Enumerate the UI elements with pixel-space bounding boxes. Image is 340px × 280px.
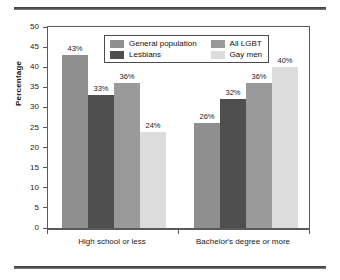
y-axis-tick-label: 40 xyxy=(30,63,43,71)
bar-column[interactable]: 26% xyxy=(194,27,220,228)
bar[interactable] xyxy=(62,55,88,228)
y-axis-ticks: 05101520253035404550 xyxy=(0,26,47,229)
bar-column[interactable]: 32% xyxy=(220,27,246,228)
bar-value-label: 40% xyxy=(277,57,292,65)
y-axis-tick-label: 0 xyxy=(35,224,43,232)
top-divider-rule xyxy=(14,7,326,10)
x-axis-label-0: High school or less xyxy=(78,237,146,247)
bar[interactable] xyxy=(272,67,298,228)
bar-chart-figure: Percentage 05101520253035404550 General … xyxy=(0,14,340,264)
bar-column[interactable]: 36% xyxy=(246,27,272,228)
bar-column[interactable]: 24% xyxy=(140,27,166,228)
y-axis-tick-label: 50 xyxy=(30,23,43,31)
y-axis-tick-label: 20 xyxy=(30,143,43,151)
bar-value-label: 24% xyxy=(145,122,160,130)
y-axis-tick-label: 5 xyxy=(35,203,43,211)
x-axis-tick-left xyxy=(47,229,48,234)
bar[interactable] xyxy=(194,123,220,228)
bar[interactable] xyxy=(114,83,140,228)
bar[interactable] xyxy=(220,99,246,228)
bar[interactable] xyxy=(88,95,114,228)
bar[interactable] xyxy=(140,132,166,228)
bar-group: 26%32%36%40% xyxy=(194,27,298,228)
y-axis-tick-label: 15 xyxy=(30,163,43,171)
bar-value-label: 36% xyxy=(251,73,266,81)
y-axis-tick-label: 45 xyxy=(30,43,43,51)
x-axis-category-labels: High school or less Bachelor's degree or… xyxy=(47,237,310,251)
bar-group: 43%33%36%24% xyxy=(62,27,166,228)
bar-value-label: 33% xyxy=(93,85,108,93)
bar-value-label: 43% xyxy=(67,45,82,53)
x-axis-tick-middle xyxy=(178,229,179,234)
bar-column[interactable]: 40% xyxy=(272,27,298,228)
x-axis-tick-right xyxy=(309,229,310,234)
y-axis-tick-label: 10 xyxy=(30,183,43,191)
bar[interactable] xyxy=(246,83,272,228)
bar-value-label: 26% xyxy=(199,113,214,121)
bottom-divider-rule xyxy=(14,266,326,269)
x-axis-label-1: Bachelor's degree or more xyxy=(196,237,290,247)
bar-value-label: 32% xyxy=(225,89,240,97)
bar-column[interactable]: 43% xyxy=(62,27,88,228)
bar-value-label: 36% xyxy=(119,73,134,81)
bar-column[interactable]: 36% xyxy=(114,27,140,228)
y-axis-tick-label: 35 xyxy=(30,83,43,91)
y-axis-tick-label: 30 xyxy=(30,103,43,111)
bars-layer: 43%33%36%24%26%32%36%40% xyxy=(48,27,309,228)
bar-column[interactable]: 33% xyxy=(88,27,114,228)
y-axis-tick-label: 25 xyxy=(30,123,43,131)
